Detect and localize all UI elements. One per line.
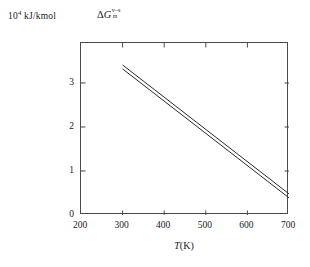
y-axis-unit-label: 104 kJ/kmol [8, 11, 56, 21]
y-tick-label: 3 [52, 77, 74, 87]
y-tick-label: 1 [52, 165, 74, 175]
x-tick-label: 700 [271, 220, 305, 230]
quantity-subscript: m [112, 13, 121, 19]
x-tick-label: 600 [229, 220, 263, 230]
quantity-script-group: v–sm [112, 7, 121, 19]
y-axis-unit-suffix: kJ/kmol [22, 11, 57, 21]
x-tick-label: 400 [146, 220, 180, 230]
delta-symbol: Δ [97, 9, 104, 20]
x-axis-title-units: (K) [180, 240, 194, 251]
data-lines [123, 65, 289, 198]
x-tick-label: 300 [105, 220, 139, 230]
y-tick-label: 2 [52, 121, 74, 131]
data-line-upper [123, 65, 289, 194]
x-tick-label: 500 [188, 220, 222, 230]
plot-canvas [81, 43, 289, 215]
x-tick-label: 200 [63, 220, 97, 230]
gibbs-symbol: G [104, 9, 112, 20]
x-axis-title: T(K) [124, 240, 244, 251]
figure-container: 104 kJ/kmol ΔGv–sm 0123 2003004005006007… [0, 0, 310, 267]
plot-area [80, 42, 288, 214]
y-tick-label: 0 [52, 209, 74, 219]
y-axis-unit-prefix: 10 [8, 11, 18, 21]
data-line-lower [123, 69, 289, 198]
y-axis-quantity-label: ΔGv–sm [97, 9, 120, 21]
tick-marks [81, 43, 289, 215]
